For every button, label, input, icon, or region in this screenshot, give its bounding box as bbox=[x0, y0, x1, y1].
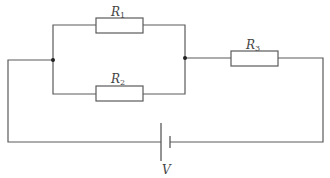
resistor-r2 bbox=[96, 86, 143, 101]
wires bbox=[8, 25, 323, 142]
label-r3: R3 bbox=[245, 38, 260, 53]
junction-right bbox=[183, 56, 187, 60]
circuit-diagram: R1 R2 R3 V bbox=[0, 0, 330, 178]
label-r2: R2 bbox=[110, 72, 125, 87]
wire-bottom-right bbox=[170, 58, 323, 142]
label-r1: R1 bbox=[110, 5, 125, 20]
wire-parallel-bottom-left bbox=[53, 60, 96, 94]
resistor-r1 bbox=[96, 18, 143, 33]
wire-parallel-top-right bbox=[143, 25, 185, 58]
circuit-svg: R1 R2 R3 V bbox=[0, 0, 330, 178]
wire-parallel-bottom-right bbox=[143, 58, 185, 94]
junction-left bbox=[51, 58, 55, 62]
label-battery-v: V bbox=[162, 163, 172, 177]
resistor-r3 bbox=[231, 51, 278, 66]
wire-parallel-top-left bbox=[53, 25, 96, 60]
